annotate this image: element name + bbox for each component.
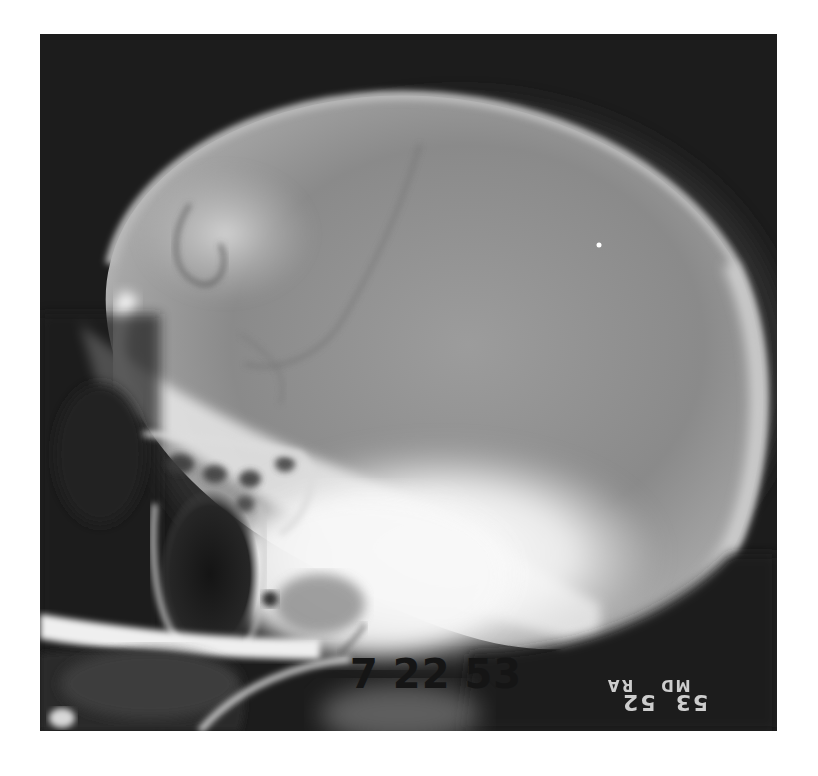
- film-marker-bottom: MDRA: [606, 676, 691, 694]
- skull-xray-illustration: [40, 34, 777, 731]
- date-stamp: 72253: [350, 651, 536, 697]
- page: 72253 5352 MDRA: [0, 0, 818, 776]
- date-stamp-month: 7: [350, 651, 379, 697]
- film-marker-bottom-2: RA: [606, 676, 633, 694]
- date-stamp-day: 22: [393, 651, 451, 697]
- date-stamp-year: 53: [465, 651, 523, 697]
- film-marker-bottom-1: MD: [659, 676, 690, 694]
- skull-xray-image: 72253 5352 MDRA: [40, 34, 777, 731]
